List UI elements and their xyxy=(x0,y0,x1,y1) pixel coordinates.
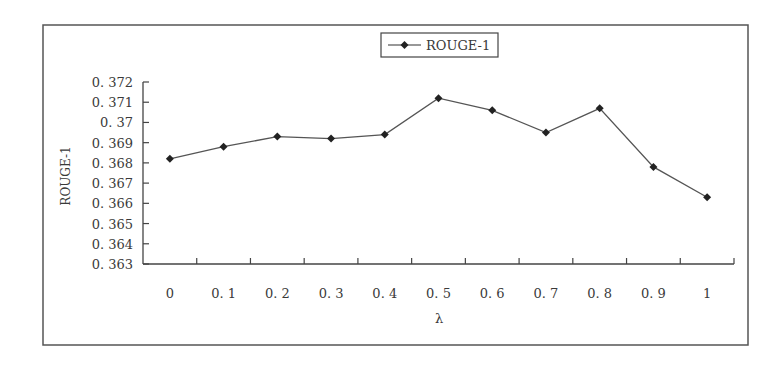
y-axis-title: ROUGE-1 xyxy=(59,146,73,205)
diamond-marker-icon xyxy=(327,135,335,143)
x-tick-label: 0. 3 xyxy=(319,286,344,301)
x-tick-label: 0. 9 xyxy=(641,286,666,301)
y-tick-label: 0. 371 xyxy=(92,95,133,110)
x-tick-label: 0 xyxy=(166,286,174,301)
y-tick-label: 0. 366 xyxy=(92,196,133,211)
series-line xyxy=(170,98,707,197)
y-tick-label: 0. 363 xyxy=(92,257,133,272)
legend: ROUGE-1 xyxy=(381,33,498,57)
y-tick-labels: 0. 3630. 3640. 3650. 3660. 3670. 3680. 3… xyxy=(92,75,133,272)
x-tick-label: 0. 4 xyxy=(372,286,397,301)
diamond-marker-icon xyxy=(381,131,389,139)
ticks xyxy=(143,82,734,264)
y-tick-label: 0. 365 xyxy=(92,217,133,232)
x-tick-label: 0. 2 xyxy=(265,286,290,301)
diamond-marker-icon xyxy=(435,94,443,102)
x-tick-label: 0. 6 xyxy=(480,286,505,301)
y-tick-label: 0. 37 xyxy=(100,115,133,130)
x-tick-labels: 00. 10. 20. 30. 40. 50. 60. 70. 80. 91 xyxy=(166,286,712,301)
x-axis-title: λ xyxy=(435,311,443,326)
x-tick-label: 0. 1 xyxy=(211,286,236,301)
diamond-marker-icon xyxy=(488,106,496,114)
axes xyxy=(143,82,734,264)
x-tick-label: 1 xyxy=(703,286,711,301)
y-tick-label: 0. 367 xyxy=(92,176,133,191)
x-tick-label: 0. 5 xyxy=(426,286,451,301)
diamond-marker-icon xyxy=(220,143,228,151)
y-tick-label: 0. 364 xyxy=(92,237,133,252)
x-tick-label: 0. 7 xyxy=(534,286,559,301)
diamond-marker-icon xyxy=(166,155,174,163)
diamond-marker-icon xyxy=(542,129,550,137)
series-rouge-1 xyxy=(166,94,711,201)
y-tick-label: 0. 368 xyxy=(92,156,133,171)
diamond-marker-icon xyxy=(273,133,281,141)
diamond-marker-icon xyxy=(703,193,711,201)
y-tick-label: 0. 372 xyxy=(92,75,133,90)
chart: ROUGE-1 0. 3630. 3640. 3650. 3660. 3670.… xyxy=(0,0,782,368)
legend-label: ROUGE-1 xyxy=(426,38,490,53)
y-tick-label: 0. 369 xyxy=(92,136,133,151)
x-tick-label: 0. 8 xyxy=(587,286,612,301)
